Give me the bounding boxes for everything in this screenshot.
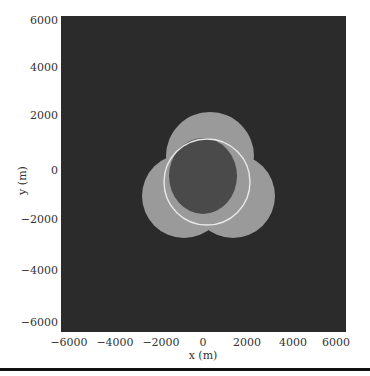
x-tick: −6000: [44, 336, 94, 349]
x-tick: −4000: [90, 336, 140, 349]
y-axis-label: y (m): [16, 161, 29, 201]
x-axis-label: x (m): [178, 349, 228, 362]
y-tick: 6000: [8, 14, 58, 27]
y-tick: 2000: [8, 109, 58, 122]
y-tick: −4000: [8, 264, 58, 277]
heatmap-plot-area: [61, 16, 346, 332]
y-tick: −2000: [8, 213, 58, 226]
x-tick: 2000: [222, 336, 272, 349]
x-tick: 6000: [311, 336, 361, 349]
heatmap-graphic: [61, 16, 346, 332]
y-tick: 4000: [8, 61, 58, 74]
y-tick: −6000: [8, 316, 58, 329]
bottom-rule: [0, 368, 370, 371]
x-tick: 0: [178, 336, 228, 349]
